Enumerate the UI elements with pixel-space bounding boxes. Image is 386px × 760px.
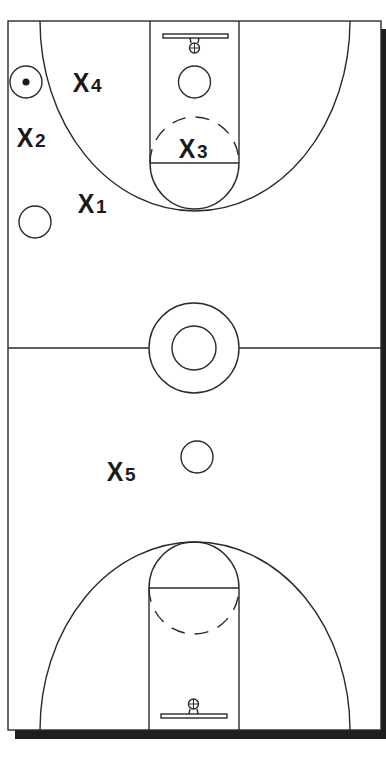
- defender-letter: X: [17, 123, 34, 154]
- defender-number: 5: [125, 464, 136, 486]
- court-shadow-bottom: [15, 730, 386, 739]
- ball-dot-icon: [23, 79, 30, 86]
- defender-x2: X2: [16, 123, 46, 154]
- center-circle-outer: [149, 303, 239, 393]
- court-shadow-right: [381, 29, 386, 739]
- defender-x1: X1: [77, 189, 107, 220]
- defender-letter: X: [179, 134, 196, 165]
- court-diagram: [0, 0, 386, 760]
- defender-number: 2: [35, 130, 46, 152]
- defender-x3: X3: [178, 134, 208, 165]
- defender-number: 4: [91, 75, 102, 97]
- defender-x4: X4: [72, 68, 102, 99]
- defender-x5: X5: [106, 457, 136, 488]
- defender-letter: X: [78, 189, 95, 220]
- defender-number: 1: [96, 196, 107, 218]
- defender-number: 3: [197, 141, 208, 163]
- defender-letter: X: [107, 457, 124, 488]
- defender-letter: X: [73, 68, 90, 99]
